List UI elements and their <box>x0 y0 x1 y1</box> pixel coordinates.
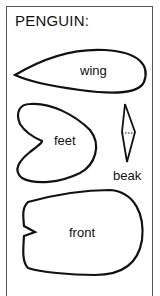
feet-label: feet <box>54 133 76 148</box>
beak-label: beak <box>113 168 141 183</box>
front-label: front <box>69 225 95 240</box>
wing-label: wing <box>80 63 107 78</box>
